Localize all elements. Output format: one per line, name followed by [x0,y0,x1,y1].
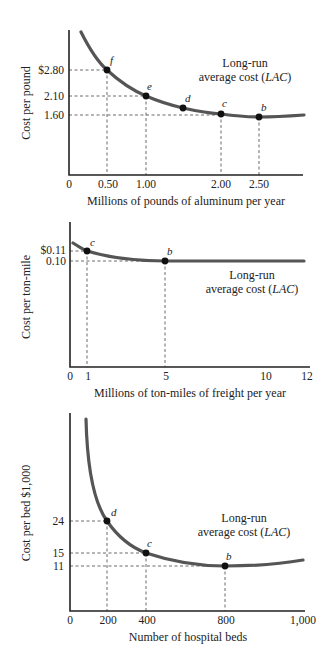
x-tick: 0 [67,614,73,626]
axes [70,413,305,611]
x-tick: 2.00 [211,178,231,190]
chart-freight: c b $0.11 0.10 0 1 5 10 12 Millions of t… [19,222,313,400]
point-c [84,248,91,255]
point-label: c [222,97,227,109]
x-tick: 0 [66,178,72,190]
x-tick: 1,000 [290,614,316,627]
lac-curve [73,243,304,261]
chart-hospital: d c b 24 15 11 0 200 400 800 1,000 Numbe… [19,413,316,644]
x-tick: 0 [67,370,73,382]
point-label: b [226,550,232,562]
x-tick: 800 [217,614,235,626]
y-tick: $2.80 [38,64,64,76]
guide-lines [70,251,165,367]
chart-aluminum: f e d c b $2.80 2.10 1.60 0 0.50 1.00 2.… [19,30,304,208]
point-label: c [90,236,95,248]
y-tick: 1.60 [44,109,64,121]
y-axis-label: Cost per pound [19,66,33,139]
point-d [104,518,111,525]
x-tick: 12 [301,370,313,382]
lac-annotation-line2: average cost (LAC) [199,70,292,84]
lac-annotation-line2: average cost (LAC) [198,525,291,539]
y-axis-label: Cost per bed $1,000 [19,465,33,562]
y-tick: 15 [53,547,65,559]
y-axis-label: Cost per ton-mile [19,255,33,339]
point-label: d [185,92,191,104]
x-tick: 200 [99,614,117,626]
point-label: e [147,80,152,92]
point-f [104,67,111,74]
point-label: b [261,101,267,113]
lac-curve [86,419,303,566]
x-tick: 10 [260,370,272,382]
point-c [218,111,225,118]
point-b [222,563,229,570]
x-tick: 1 [85,370,91,382]
x-tick: 400 [138,614,156,626]
point-label: d [111,506,117,518]
point-label: b [167,245,173,257]
lac-annotation-line1: Long-run [222,56,267,70]
lac-annotation-line1: Long-run [221,511,266,525]
y-tick: 2.10 [44,90,64,102]
point-c [143,550,150,557]
guide-lines [69,70,259,175]
point-label: c [147,537,152,549]
y-tick: 24 [53,515,65,527]
point-d [180,105,187,112]
point-e [143,93,150,100]
y-tick: 11 [53,560,64,572]
x-tick: 5 [163,370,169,382]
lac-annotation-line1: Long-run [229,268,274,282]
x-axis-label: Number of hospital beds [129,630,248,644]
x-tick: 0.50 [98,178,118,190]
y-tick: 0.10 [46,255,66,267]
x-axis-label: Millions of pounds of aluminum per year [87,194,285,208]
point-label: f [110,54,115,66]
x-tick: 2.50 [249,178,269,190]
x-axis-label: Millions of ton-miles of freight per yea… [94,386,286,400]
lac-annotation-line2: average cost (LAC) [206,282,299,296]
lac-charts-figure: f e d c b $2.80 2.10 1.60 0 0.50 1.00 2.… [0,0,336,665]
point-b [256,114,263,121]
x-tick: 1.00 [136,178,156,190]
point-b [162,258,169,265]
